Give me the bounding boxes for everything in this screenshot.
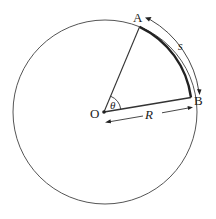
label-theta: θ [110, 99, 116, 111]
arc-ab [140, 27, 191, 98]
origin-dot [102, 110, 106, 114]
radius-dimension-left [108, 116, 143, 122]
arc-length-diagram: A B O θ R s [0, 0, 216, 219]
label-r: R [144, 107, 153, 122]
label-b: B [194, 93, 203, 108]
arrowhead-a [145, 17, 152, 22]
arrowhead-r-left [105, 119, 111, 123]
label-o: O [90, 106, 99, 121]
label-s: s [178, 39, 183, 53]
arrowhead-r-right [188, 106, 194, 110]
radius-dimension-right [162, 108, 191, 113]
label-a: A [133, 10, 143, 25]
